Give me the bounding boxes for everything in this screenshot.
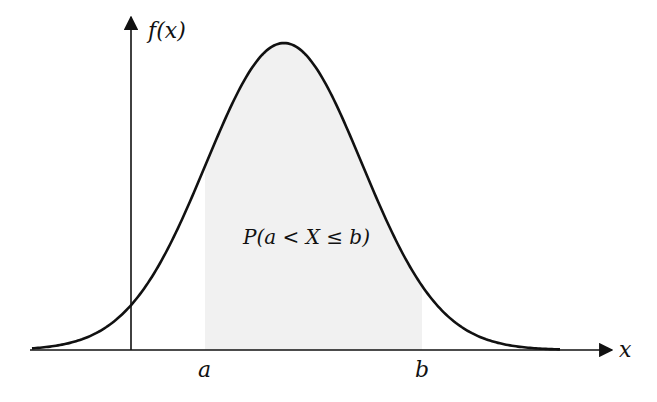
y-axis-label: f(x) <box>146 18 186 43</box>
tick-label-a: a <box>198 357 211 382</box>
shaded-probability-region <box>205 43 422 350</box>
x-axis-label: x <box>619 337 632 362</box>
probability-region-label: P(a < X ≤ b) <box>242 225 370 249</box>
normal-distribution-figure: f(x) x a b P(a < X ≤ b) <box>0 0 657 402</box>
tick-label-b: b <box>415 357 429 382</box>
